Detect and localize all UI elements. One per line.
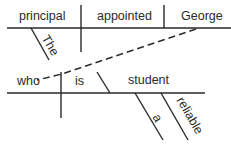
predicate-nominative-slash <box>97 72 110 93</box>
word-subject: principal <box>19 10 66 23</box>
word-relative-subject: who <box>17 75 40 88</box>
word-predicate-nominative: student <box>128 74 169 87</box>
word-relative-verb: is <box>75 75 84 88</box>
word-verb: appointed <box>97 10 152 23</box>
word-object: George <box>181 10 223 23</box>
